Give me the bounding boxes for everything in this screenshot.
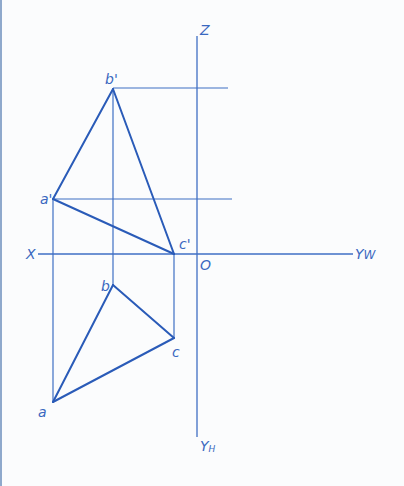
point-label-b: b: [101, 278, 110, 294]
point-label-a: a: [38, 404, 47, 420]
yh-axis-label: YH: [200, 438, 216, 454]
yw-axis-label: YW: [355, 246, 377, 262]
edge-a-c: [53, 338, 174, 402]
point-label-c: c: [172, 344, 180, 360]
x-axis-label: X: [25, 246, 36, 262]
point-label-b-prime: b': [105, 71, 118, 87]
edge-b-prime-c-prime: [113, 89, 174, 254]
edge-a-b: [53, 285, 113, 402]
origin-label: O: [200, 257, 211, 273]
point-label-a-prime: a': [40, 191, 52, 207]
projection-diagram: Z X YW O YH b' a' c' b c a: [0, 0, 404, 486]
z-axis-label: Z: [199, 22, 210, 38]
edge-a-prime-b-prime: [53, 89, 113, 199]
point-label-c-prime: c': [179, 236, 191, 252]
edge-b-c: [113, 285, 174, 338]
